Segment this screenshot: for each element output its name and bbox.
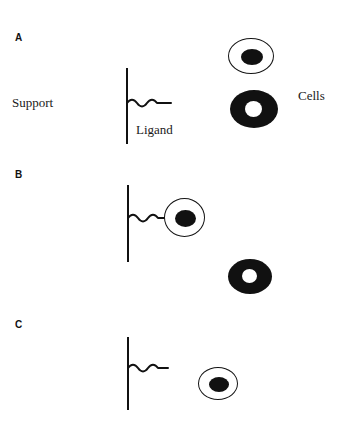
cell-nucleus (209, 377, 229, 392)
donut-cell-a (230, 90, 278, 128)
cell-nucleus (175, 210, 196, 227)
ligand-squiggle-a (126, 96, 172, 110)
donut-cell-b (228, 259, 272, 294)
outlined-cell-c (198, 367, 238, 400)
cells-label: Cells (298, 88, 325, 103)
panel-label-c: C (15, 320, 22, 330)
outlined-cell-a (228, 38, 274, 74)
ligand-squiggle-c (127, 361, 169, 375)
ligand-squiggle-b (127, 211, 167, 225)
cell-hole (242, 269, 257, 283)
panel-label-a: A (15, 33, 22, 43)
ligand-label: Ligand (136, 122, 173, 137)
cell-nucleus (241, 49, 263, 65)
figure-canvas: A Support Ligand Cells B C (0, 0, 343, 422)
cell-hole (245, 101, 262, 117)
support-label: Support (12, 95, 53, 110)
outlined-cell-b-bound (164, 198, 205, 237)
panel-label-b: B (15, 170, 22, 180)
